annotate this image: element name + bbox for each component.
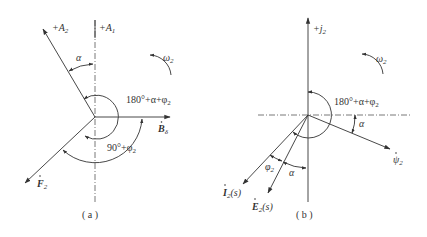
vector-f2 [25, 117, 95, 183]
vector-f2-label: F2 [36, 178, 48, 191]
rotation-omega-label-a: ω2 [163, 52, 174, 65]
panel-a: +A1 +A2 Bδ F2 α 180°+α+φ2 90°+φ2 [25, 20, 174, 221]
vector-a2-label: +A2 [52, 22, 69, 35]
vector-b-delta-label: Bδ [157, 123, 169, 136]
angle-phi2-label-b: φ2 [265, 161, 275, 174]
angle-phi2-arc-b [270, 155, 282, 161]
axis-a1-label: +A1 [99, 22, 115, 35]
phasor-diagram: +A1 +A2 Bδ F2 α 180°+α+φ2 90°+φ2 [0, 0, 427, 237]
vector-e2s [268, 115, 308, 193]
angle-alpha-arc-b-bottom [283, 162, 306, 168]
angle-90-label-a: 90°+φ2 [107, 142, 136, 155]
angle-alpha-label-b-bottom: α [289, 167, 295, 178]
vector-i2s-label: I2(s) [222, 187, 242, 200]
angle-alpha-arc-b-right [352, 115, 355, 133]
vector-psi2 [308, 115, 390, 149]
angle-90-arc-a [63, 119, 142, 163]
panel-b: +j2 ψ2 I2(s) E2(s) 180°+α+φ2 α [222, 18, 412, 221]
angle-alpha-label-a: α [76, 52, 82, 63]
vector-a2 [43, 29, 95, 117]
angle-alpha-arc-a [69, 64, 93, 71]
caption-b: ( b ) [296, 209, 313, 221]
rotation-omega-label-b: ω2 [376, 53, 387, 66]
caption-a: ( a ) [82, 209, 98, 221]
axis-j2-label: +j2 [313, 23, 327, 36]
angle-180-label-a: 180°+α+φ2 [126, 94, 171, 107]
vector-e2s-label: E2(s) [251, 201, 273, 214]
vector-i2s [243, 115, 308, 184]
angle-180-label-b: 180°+α+φ2 [334, 96, 379, 109]
vector-psi2-label: ψ2 [393, 154, 403, 167]
angle-alpha-label-b-right: α [359, 118, 365, 129]
